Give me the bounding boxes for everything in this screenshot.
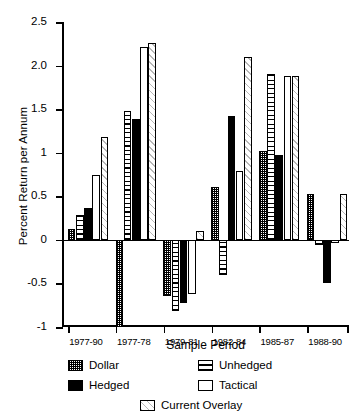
bar (315, 240, 323, 245)
bar (236, 171, 244, 240)
legend-item-dollar: Dollar (68, 359, 119, 371)
bar (172, 240, 180, 311)
y-axis-tick: -0.5 (56, 283, 63, 285)
bar (148, 43, 156, 240)
y-axis-tick-label: 0.5 (31, 188, 47, 203)
legend-item-unhedged: Unhedged (198, 359, 272, 371)
plot-area: 2.52.01.510.50-0.5-1 1977-901977-781979-… (62, 22, 349, 327)
bar (132, 119, 140, 240)
y-axis-tick-label: -0.5 (27, 275, 47, 290)
bar (211, 187, 219, 240)
bar (140, 47, 148, 240)
y-axis-tick-label: 0 (41, 232, 47, 247)
x-axis-tick (307, 325, 309, 333)
legend-label-unhedged: Unhedged (219, 359, 272, 371)
y-axis-tick: 2.5 (56, 22, 63, 24)
bar (124, 111, 132, 240)
y-axis-line (62, 22, 64, 327)
x-axis-tick (164, 325, 166, 333)
y-axis-tick-label: 2.0 (31, 58, 47, 73)
chart-legend: Dollar Hedged Unhedged Tactical Current … (0, 357, 362, 416)
bar (284, 76, 292, 240)
bar (267, 74, 275, 240)
bar (188, 240, 196, 294)
y-axis-tick: 1.5 (56, 109, 63, 111)
bar (101, 137, 109, 240)
legend-label-hedged: Hedged (89, 379, 129, 391)
y-axis-tick: 2.0 (56, 66, 63, 68)
bar (180, 240, 188, 303)
bar (68, 229, 76, 239)
x-axis-line (62, 325, 349, 327)
bar-chart-figure: Percent Return per Annum 2.52.01.510.50-… (0, 0, 362, 416)
y-axis-tick: -1 (56, 327, 63, 329)
x-axis-title: Sample Period (62, 338, 349, 352)
legend-item-hedged: Hedged (68, 379, 129, 391)
legend-item-current-overlay: Current Overlay (140, 399, 242, 411)
y-axis-tick-label: 2.5 (31, 14, 47, 29)
y-axis-tick-label: -1 (37, 319, 47, 334)
x-axis-tick (347, 325, 349, 333)
bar (92, 175, 100, 239)
y-axis-tick-label: 1 (41, 145, 47, 160)
y-axis-tick: 1 (56, 153, 63, 155)
bar (116, 240, 124, 327)
y-axis-tick: 0.5 (56, 196, 63, 198)
bar (340, 194, 348, 240)
legend-swatch-dollar-icon (68, 360, 83, 371)
x-axis-tick (212, 325, 214, 333)
bar (219, 240, 227, 275)
bar (84, 208, 92, 240)
legend-swatch-tactical-icon (198, 380, 213, 391)
legend-label-dollar: Dollar (89, 359, 119, 371)
legend-item-tactical: Tactical (198, 379, 257, 391)
bar (244, 57, 252, 240)
legend-swatch-hedged-icon (68, 380, 83, 391)
bar (76, 215, 84, 239)
legend-swatch-current-overlay-icon (140, 400, 155, 411)
y-axis-tick-label: 1.5 (31, 101, 47, 116)
bar (275, 155, 283, 240)
bar (307, 194, 315, 240)
legend-label-current-overlay: Current Overlay (161, 399, 242, 411)
bar (323, 240, 331, 284)
zero-baseline (62, 240, 349, 242)
bar (196, 231, 204, 240)
legend-swatch-unhedged-icon (198, 360, 213, 371)
x-axis-tick (68, 325, 70, 333)
x-axis-tick (259, 325, 261, 333)
bar (331, 240, 339, 243)
bar (292, 76, 300, 240)
y-axis-tick: 0 (56, 240, 63, 242)
legend-label-tactical: Tactical (219, 379, 257, 391)
y-axis-title: Percent Return per Annum (17, 71, 29, 281)
bar (228, 116, 236, 240)
bar (259, 151, 267, 240)
bar (163, 240, 171, 297)
